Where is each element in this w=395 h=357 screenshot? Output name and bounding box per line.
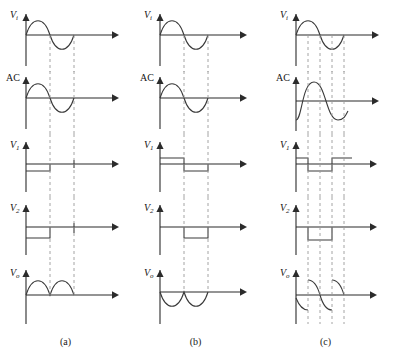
panel-b-v1: V1 — [130, 134, 261, 198]
waveform-plot-vi — [0, 8, 131, 72]
waveform-column-b: Vi AC — [130, 0, 261, 357]
panel-a-ac: AC — [0, 71, 131, 135]
waveform-plot-ac — [130, 71, 261, 135]
waveform-plot-vo — [130, 262, 261, 332]
panel-b-v2: V2 — [130, 197, 261, 261]
waveform-plot-v1 — [0, 134, 131, 198]
panel-c-ac: AC — [260, 71, 391, 135]
waveform-column-c: Vi AC — [260, 0, 391, 357]
waveform-plot-v1 — [130, 134, 261, 198]
waveform-plot-ac — [260, 71, 391, 135]
waveform-plot-v2 — [260, 197, 391, 261]
panel-c-vi: Vi — [260, 8, 391, 72]
panel-a-v1: V1 — [0, 134, 131, 198]
waveform-plot-v2 — [130, 197, 261, 261]
panel-a-vo: Vo — [0, 262, 131, 326]
waveform-plot-v2 — [0, 197, 131, 261]
waveform-plot-vi — [260, 8, 391, 72]
panel-c-v2: V2 — [260, 197, 391, 261]
waveform-plot-vo — [0, 262, 131, 332]
waveform-column-a: Vi AC — [0, 0, 131, 357]
panel-b-vi: Vi — [130, 8, 261, 72]
caption-b: (b) — [130, 336, 261, 347]
panel-c-vo: Vo — [260, 262, 391, 326]
waveform-plot-v1 — [260, 134, 391, 198]
panel-a-vi: Vi — [0, 8, 131, 72]
waveform-plot-vi — [130, 8, 261, 72]
caption-c: (c) — [260, 336, 391, 347]
waveform-plot-ac — [0, 71, 131, 135]
waveform-plot-vo — [260, 262, 391, 332]
panel-b-vo: Vo — [130, 262, 261, 326]
waveform-figure: Vi AC — [0, 0, 395, 357]
panel-a-v2: V2 — [0, 197, 131, 261]
panel-c-v1: V1 — [260, 134, 391, 198]
caption-a: (a) — [0, 336, 131, 347]
panel-b-ac: AC — [130, 71, 261, 135]
